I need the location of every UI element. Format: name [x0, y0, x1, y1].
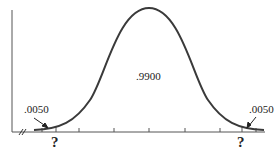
left-tail-area-label: .0050 [24, 103, 49, 115]
left-bound-label: ? [51, 134, 59, 151]
pointer-arrow-left [34, 118, 48, 128]
pointer-arrow-right [247, 117, 256, 128]
center-area-label: .9900 [136, 70, 161, 82]
normal-curve [34, 8, 264, 130]
right-bound-label: ? [237, 134, 245, 151]
right-tail-area-label: .0050 [249, 103, 274, 115]
x-ticks [42, 127, 256, 132]
